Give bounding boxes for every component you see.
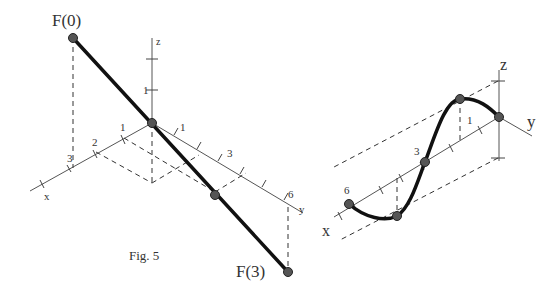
point-mid <box>211 191 220 200</box>
right-point-max <box>456 95 465 104</box>
z-tick-1: 1 <box>143 84 149 96</box>
right-z-tick-1: 1 <box>467 114 473 126</box>
x-tick-3: 3 <box>67 152 73 164</box>
right-point-6 <box>345 200 354 209</box>
right-label-x: x <box>322 222 330 239</box>
label-x-axis: x <box>44 190 50 202</box>
y-tick-6: 6 <box>288 188 294 200</box>
label-f0: F(0) <box>52 11 81 30</box>
left-panel: F(0) F(3) z x y 1 1 2 3 1 3 6 Fig. 5 <box>30 11 305 281</box>
right-panel: z y x 1 3 6 <box>322 56 536 240</box>
right-point-origin <box>495 113 504 122</box>
point-f0 <box>69 34 78 43</box>
right-label-y: y <box>527 112 536 131</box>
y-tick-3: 3 <box>227 147 233 159</box>
label-f3: F(3) <box>236 262 265 281</box>
label-y-axis: y <box>299 203 305 215</box>
x-tick-1: 1 <box>120 121 126 133</box>
right-x-axis <box>334 117 499 217</box>
right-point-min <box>393 212 402 221</box>
figure-canvas: F(0) F(3) z x y 1 1 2 3 1 3 6 Fig. 5 <box>0 0 560 291</box>
right-x-tick-3: 3 <box>414 145 420 157</box>
point-f3 <box>284 268 293 277</box>
y-tick-1: 1 <box>180 121 186 133</box>
x-axis <box>30 123 152 191</box>
right-label-z: z <box>500 56 507 73</box>
label-z-axis: z <box>156 36 161 47</box>
x-tick-2: 2 <box>92 136 98 148</box>
right-point-3 <box>421 158 430 167</box>
point-origin <box>148 119 157 128</box>
right-x-tick-6: 6 <box>344 184 350 196</box>
trajectory-line <box>73 38 288 272</box>
figure-caption: Fig. 5 <box>129 248 159 263</box>
